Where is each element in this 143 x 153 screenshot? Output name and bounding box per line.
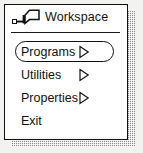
menu-item-properties[interactable]: Properties xyxy=(5,87,127,109)
menu-item-label: Utilities xyxy=(21,66,61,84)
menu-item-programs[interactable]: Programs xyxy=(5,41,127,63)
menu-item-label: Exit xyxy=(21,112,42,130)
screen: Workspace Programs Utilities xyxy=(0,0,143,153)
header-divider xyxy=(11,32,120,33)
panel-header: Workspace xyxy=(5,5,127,31)
menu-item-label: Programs xyxy=(21,43,75,61)
menu-item-utilities[interactable]: Utilities xyxy=(5,64,127,86)
page-title: Workspace xyxy=(45,8,108,26)
menu-item-exit[interactable]: Exit xyxy=(5,110,127,132)
menu-item-label: Properties xyxy=(21,89,78,107)
workspace-menu-panel: Workspace Programs Utilities xyxy=(4,4,128,140)
chevron-right-icon xyxy=(78,45,90,59)
pushpin-icon xyxy=(12,9,40,27)
chevron-right-icon xyxy=(78,91,90,105)
menu-list: Programs Utilities xyxy=(5,41,127,132)
chevron-right-icon xyxy=(78,68,90,82)
